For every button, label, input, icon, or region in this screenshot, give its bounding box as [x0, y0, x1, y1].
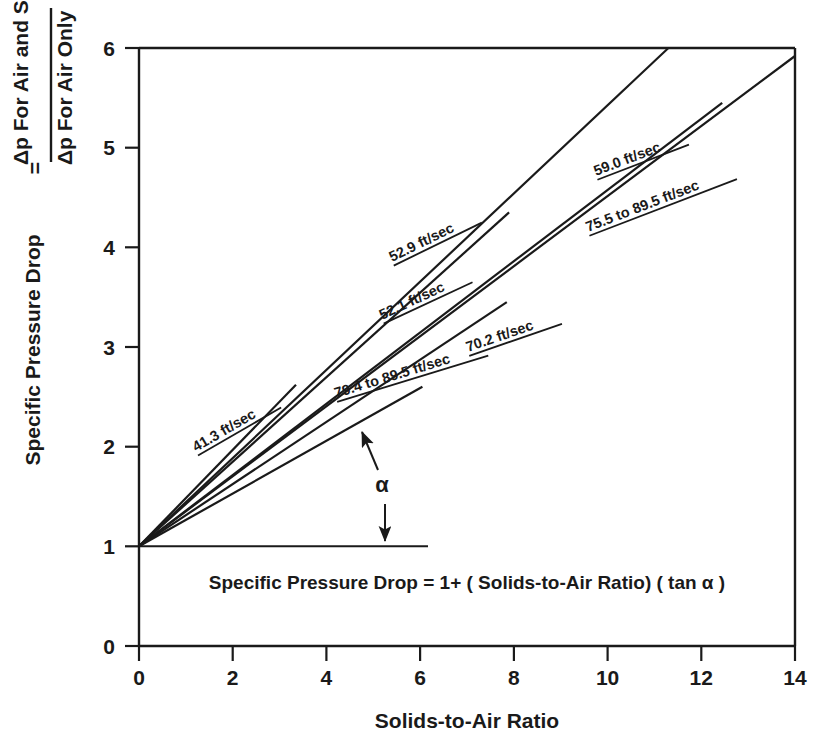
x-tick-label-8: 8	[508, 666, 520, 689]
y-axis-label-denominator: Δp For Air Only	[53, 10, 76, 165]
x-tick-label-2: 2	[227, 666, 239, 689]
y-axis-label-prefix: Specific Pressure Drop	[21, 234, 44, 465]
series-line-75-5-89-5	[139, 103, 722, 547]
y-axis-label-numerator: Δp For Air and Solids	[9, 0, 32, 165]
equation-annotation: Specific Pressure Drop = 1+ ( Solids-to-…	[209, 572, 725, 593]
x-axis-tick-labels: 0 2 4 6 8 10 12 14	[133, 666, 807, 689]
figure-container: Specific Pressure Drop = Δp For Air and …	[0, 0, 839, 750]
chart-svg: Specific Pressure Drop = Δp For Air and …	[0, 0, 839, 750]
x-tick-label-4: 4	[321, 666, 333, 689]
x-tick-label-6: 6	[414, 666, 426, 689]
y-tick-label-6: 6	[103, 37, 115, 60]
svg-text:Δp For Air Only: Δp For Air Only	[53, 10, 76, 165]
series-label-75-5-89-5: 75.5 to 89.5 ft/sec	[583, 177, 701, 235]
y-axis-tick-labels: 0 1 2 3 4 5 6	[103, 37, 115, 658]
series-line-41-3	[139, 385, 296, 547]
alpha-symbol: α	[375, 472, 389, 497]
series-label-52-1-group: 52.1 ft/sec	[377, 267, 473, 324]
x-tick-label-14: 14	[783, 666, 807, 689]
x-axis-ticks	[139, 646, 795, 661]
series-line-52-1	[139, 212, 509, 546]
y-tick-label-2: 2	[103, 435, 115, 458]
series-label-70-2-group: 70.2 ft/sec	[464, 308, 562, 356]
svg-text:Δp For Air and Solids: Δp For Air and Solids	[9, 0, 32, 165]
y-axis-label: Specific Pressure Drop	[21, 234, 44, 465]
series-label-52-1: 52.1 ft/sec	[377, 279, 447, 323]
series-lines	[139, 48, 795, 546]
series-line-70-2	[139, 302, 507, 546]
y-tick-label-4: 4	[103, 236, 115, 259]
series-line-79-4-89-5	[139, 387, 422, 547]
alpha-annotation: α	[362, 432, 389, 541]
x-axis-title: Solids-to-Air Ratio	[375, 709, 559, 732]
y-axis-ticks	[125, 48, 139, 646]
y-tick-label-1: 1	[103, 535, 115, 558]
alpha-arrow-up	[362, 432, 378, 470]
y-tick-label-3: 3	[103, 336, 115, 359]
y-tick-label-0: 0	[103, 635, 115, 658]
y-tick-label-5: 5	[103, 136, 115, 159]
x-tick-label-12: 12	[690, 666, 713, 689]
x-tick-label-0: 0	[133, 666, 145, 689]
x-tick-label-10: 10	[596, 666, 619, 689]
